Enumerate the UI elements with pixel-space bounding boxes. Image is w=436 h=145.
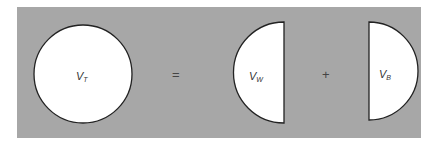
b-segment-shape [369,22,418,120]
plus-sign: + [322,67,330,82]
water-segment-shape [233,22,284,123]
volume-equation-diagram: VT = VW + VB [0,0,436,145]
equals-sign: = [172,67,180,82]
